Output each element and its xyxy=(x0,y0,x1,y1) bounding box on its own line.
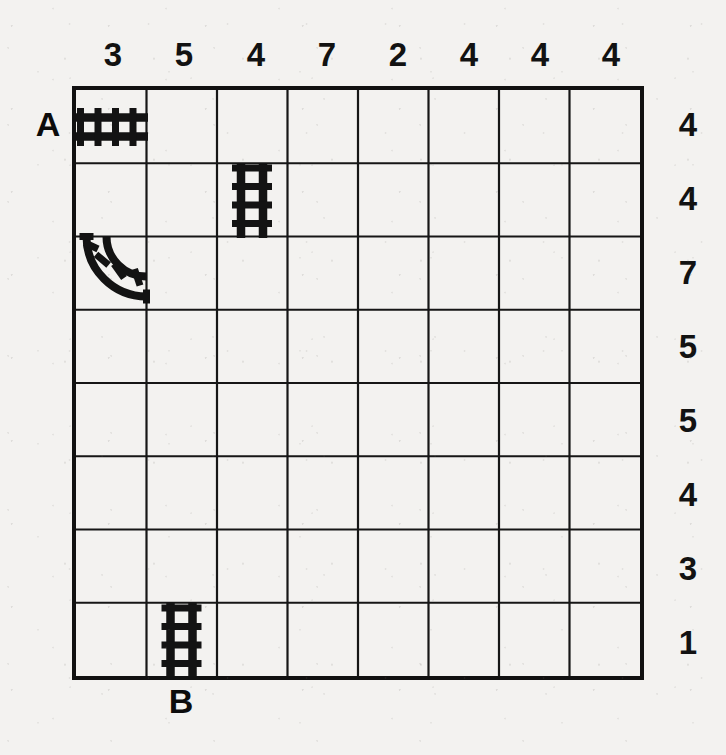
track-curve[interactable] xyxy=(80,237,147,304)
puzzle-grid[interactable] xyxy=(72,86,644,680)
row-clue-3: 7 xyxy=(668,256,708,289)
row-clue-8: 1 xyxy=(668,626,708,659)
row-clue-4: 5 xyxy=(668,330,708,363)
column-clue-2: 5 xyxy=(164,38,204,71)
track-pieces-layer xyxy=(76,90,640,676)
column-clue-6: 4 xyxy=(449,38,489,71)
railroad-puzzle: 3 5 4 7 2 4 4 4 4 4 7 5 5 4 3 1 A B xyxy=(0,0,726,755)
track-straight-vertical[interactable] xyxy=(162,603,202,676)
column-clue-7: 4 xyxy=(520,38,560,71)
column-clue-5: 2 xyxy=(378,38,418,71)
row-clue-2: 4 xyxy=(668,182,708,215)
column-clue-1: 3 xyxy=(93,38,133,71)
column-clue-4: 7 xyxy=(307,38,347,71)
column-clue-3: 4 xyxy=(236,38,276,71)
row-clue-5: 5 xyxy=(668,404,708,437)
track-straight-vertical[interactable] xyxy=(232,163,272,238)
row-clue-1: 4 xyxy=(668,108,708,141)
track-straight-horizontal[interactable] xyxy=(76,108,148,146)
endpoint-label-b: B xyxy=(161,684,201,718)
endpoint-label-a: A xyxy=(28,107,68,141)
column-clue-8: 4 xyxy=(591,38,631,71)
row-clue-6: 4 xyxy=(668,478,708,511)
row-clue-7: 3 xyxy=(668,552,708,585)
